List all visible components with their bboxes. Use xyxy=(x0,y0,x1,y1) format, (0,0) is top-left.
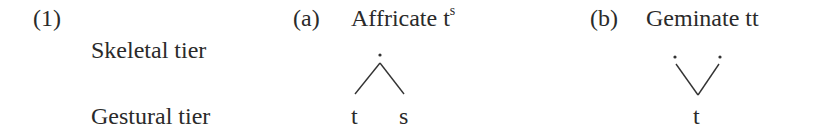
panel-a-label: (a) xyxy=(293,6,320,30)
skeletal-slot-dot xyxy=(673,55,676,58)
gestural-tier-label: Gestural tier xyxy=(91,104,210,128)
association-line xyxy=(676,64,698,95)
example-number: (1) xyxy=(33,6,61,30)
association-line xyxy=(380,63,404,94)
panel-a-title: Affricate ts xyxy=(351,6,455,30)
panel-b-gesture-t: t xyxy=(693,104,700,128)
skeletal-slot-dot xyxy=(718,55,721,58)
affricate-diagram xyxy=(355,53,404,94)
geminate-diagram xyxy=(673,55,721,95)
association-line xyxy=(355,63,380,94)
panel-a-title-superscript: s xyxy=(450,3,455,18)
panel-a-gesture-t: t xyxy=(351,104,358,128)
skeletal-tier-label: Skeletal tier xyxy=(91,38,206,62)
panel-a-gesture-s: s xyxy=(399,104,408,128)
skeletal-slot-dot xyxy=(378,53,381,56)
association-line xyxy=(698,64,719,95)
panel-b-title: Geminate tt xyxy=(646,6,759,30)
panel-a-title-text: Affricate t xyxy=(351,5,450,31)
panel-b-label: (b) xyxy=(590,6,618,30)
